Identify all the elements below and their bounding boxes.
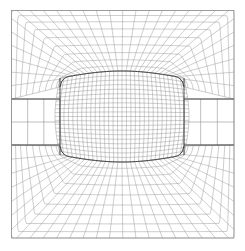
- mesh-block-core: [55, 71, 189, 162]
- mesh-figure: [0, 0, 245, 251]
- mesh-canvas: [0, 0, 245, 251]
